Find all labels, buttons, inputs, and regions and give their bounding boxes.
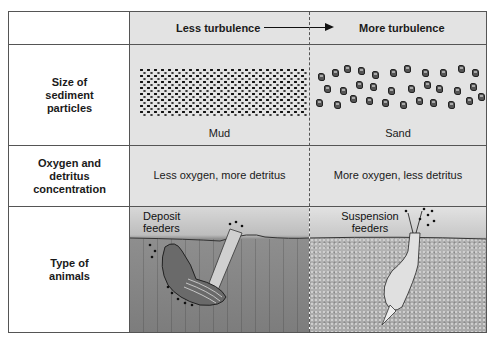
sand-grain bbox=[424, 81, 431, 89]
suspension-feeders-label: Suspension feeders bbox=[339, 210, 401, 234]
sand-grain bbox=[316, 99, 323, 107]
sand-grain bbox=[318, 73, 325, 81]
sand-grain bbox=[478, 93, 485, 101]
sand-grain bbox=[408, 85, 415, 93]
row-label-oxygen: Oxygen and detritus concentration bbox=[9, 146, 130, 206]
sand-grain bbox=[366, 97, 373, 105]
sand-grain bbox=[466, 97, 473, 105]
sand-grain bbox=[332, 69, 339, 77]
sand-grain bbox=[370, 83, 377, 91]
sand-grain bbox=[400, 101, 407, 109]
comparison-table: Less turbulence More turbulence Size of … bbox=[8, 11, 487, 333]
sand-grain bbox=[436, 85, 443, 93]
deposit-feeders-label: Deposit feeders bbox=[143, 210, 193, 234]
sand-grain bbox=[416, 97, 423, 105]
row-label-text: Oxygen and detritus concentration bbox=[20, 157, 120, 196]
sand-grain bbox=[340, 87, 347, 95]
sand-grain bbox=[324, 85, 331, 93]
sand-grain bbox=[440, 69, 447, 77]
sand-grain bbox=[344, 65, 351, 73]
sand-grain bbox=[372, 71, 379, 79]
sand-label: Sand bbox=[310, 127, 486, 139]
sand-grain bbox=[454, 87, 461, 95]
sand-grain bbox=[448, 101, 455, 109]
sand-grain bbox=[356, 81, 363, 89]
sand-grain bbox=[382, 99, 389, 107]
animal-illustration: Deposit feeders Suspension feeders bbox=[9, 207, 486, 332]
suspension-feeders-text: Suspension feeders bbox=[339, 210, 401, 234]
sand-grain bbox=[472, 69, 479, 77]
sand-grain bbox=[422, 69, 429, 77]
sand-grain bbox=[388, 87, 395, 95]
sand-grain bbox=[390, 69, 397, 77]
arrow-right-icon bbox=[264, 27, 332, 28]
sand-grain bbox=[430, 99, 437, 107]
sand-grain bbox=[458, 65, 465, 73]
sand-grain bbox=[350, 95, 357, 103]
sand-cell: Sand bbox=[310, 45, 486, 145]
sand-grain bbox=[404, 65, 411, 73]
sand-grain bbox=[358, 67, 365, 75]
row-label-sediment: Size of sediment particles bbox=[9, 45, 130, 145]
mud-particles-offset bbox=[141, 70, 308, 117]
header-more-turbulence: More turbulence bbox=[359, 12, 445, 44]
deposit-feeders-text: Deposit feeders bbox=[143, 210, 193, 234]
less-oxygen-text: Less oxygen, more detritus bbox=[130, 169, 309, 181]
dashed-divider bbox=[309, 12, 310, 332]
mud-label: Mud bbox=[130, 127, 309, 139]
row-label-text: Size of sediment particles bbox=[30, 76, 110, 115]
header-less-turbulence: Less turbulence bbox=[176, 12, 260, 44]
sand-grain bbox=[334, 101, 341, 109]
more-oxygen-text: More oxygen, less detritus bbox=[310, 169, 486, 181]
mud-cell: Mud bbox=[130, 45, 309, 145]
sand-grain bbox=[470, 83, 477, 91]
